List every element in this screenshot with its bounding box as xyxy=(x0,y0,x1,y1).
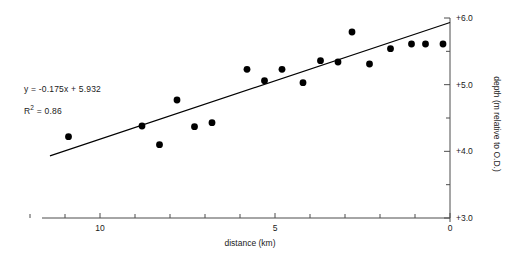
y-axis-title: depth (m relative to O.D.) xyxy=(492,76,502,171)
data-point xyxy=(349,29,356,36)
data-point xyxy=(408,41,415,48)
data-point xyxy=(209,119,216,126)
data-point xyxy=(335,59,342,66)
data-point xyxy=(300,79,307,86)
data-point xyxy=(317,57,324,64)
data-point xyxy=(279,66,286,73)
data-point xyxy=(174,97,181,104)
y-axis-ticks xyxy=(444,18,450,218)
x-axis-tick-label: 5 xyxy=(273,223,278,233)
scatter-plot xyxy=(0,0,520,264)
data-points xyxy=(65,0,446,148)
data-point xyxy=(261,77,268,84)
data-point xyxy=(440,41,447,48)
x-axis-tick-label: 0 xyxy=(448,223,453,233)
data-point xyxy=(191,123,198,130)
x-axis-title: distance (km) xyxy=(224,238,275,248)
data-point xyxy=(387,45,394,52)
regression-equation-label: y = -0.175x + 5.932 xyxy=(24,84,101,94)
data-point xyxy=(139,123,146,130)
x-axis-tick-label: 10 xyxy=(95,223,104,233)
r-squared-label: R2 = 0.86 xyxy=(24,104,62,116)
chart-screenshot: y = -0.175x + 5.932 R2 = 0.86 distance (… xyxy=(0,0,520,264)
trendline xyxy=(50,23,450,156)
y-axis-tick-label: +4.0 xyxy=(456,146,473,156)
data-point xyxy=(156,141,163,148)
data-point xyxy=(366,61,373,68)
data-point xyxy=(422,41,429,48)
y-axis-tick-label: +6.0 xyxy=(456,13,473,23)
regression-line xyxy=(50,23,450,156)
data-point xyxy=(65,133,72,140)
r-squared-value: = 0.86 xyxy=(34,106,62,116)
data-point xyxy=(244,66,251,73)
y-axis-tick-label: +3.0 xyxy=(456,213,473,223)
x-axis-ticks xyxy=(30,213,450,218)
y-axis-tick-label: +5.0 xyxy=(456,80,473,90)
